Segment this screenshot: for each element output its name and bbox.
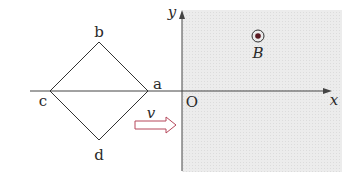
diagram-canvas: b a c d v y x O B <box>0 0 356 186</box>
field-dot <box>255 33 261 39</box>
vertex-label-c: c <box>39 92 47 110</box>
y-axis-label: y <box>167 3 177 21</box>
origin-label: O <box>186 93 198 111</box>
velocity-label: v <box>147 104 156 122</box>
vertex-label-a: a <box>153 75 162 93</box>
vertex-label-d: d <box>94 146 104 164</box>
vertex-label-b: b <box>94 23 104 41</box>
field-label-B: B <box>251 44 263 62</box>
x-axis-label: x <box>330 91 339 109</box>
velocity-arrow-icon <box>135 117 176 133</box>
